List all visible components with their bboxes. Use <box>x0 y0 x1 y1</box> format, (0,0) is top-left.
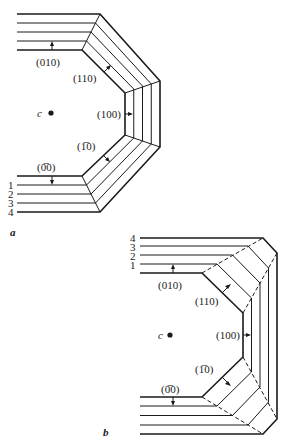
face-label-1m10: (1̅0) <box>77 140 96 153</box>
face-label-110: (110) <box>73 72 97 85</box>
panel-label-a: a <box>10 226 16 238</box>
arrow-110 <box>104 65 111 72</box>
arrow-010 <box>171 264 175 273</box>
center-point <box>167 332 172 337</box>
crystal-growth-diagram: (010) (110) (100) (1̅0) (0̅0) c 1 2 3 4 … <box>0 0 289 445</box>
panel-label-b: b <box>103 426 109 438</box>
face-label-010: (010) <box>158 279 182 292</box>
face-label-1m10: (1̅0) <box>195 363 214 376</box>
face-label-100: (100) <box>216 329 240 342</box>
stage-number-4: 4 <box>8 206 14 218</box>
center-label: c <box>158 329 163 341</box>
arrow-100 <box>125 112 133 116</box>
arrow-0m10 <box>50 176 54 185</box>
panel-a: (010) (110) (100) (1̅0) (0̅0) c 1 2 3 4 … <box>8 14 160 238</box>
panel-b: (010) (110) (100) (1̅0) (0̅0) c 4 3 2 1 … <box>103 232 277 438</box>
center-point <box>48 110 53 115</box>
face-label-010: (010) <box>36 56 60 69</box>
arrow-100 <box>243 333 251 337</box>
stage-number-1: 1 <box>130 259 136 271</box>
center-label: c <box>37 107 42 119</box>
arrow-0m10 <box>171 397 175 406</box>
face-label-0m10: (0̅0) <box>161 383 180 396</box>
arrow-110 <box>222 284 231 293</box>
face-label-110: (110) <box>195 295 219 308</box>
arrow-1m10 <box>103 155 110 162</box>
face-label-100: (100) <box>97 108 121 121</box>
arrow-010 <box>50 41 54 50</box>
face-label-0m10: (0̅0) <box>37 161 56 174</box>
arrow-1m10 <box>222 377 231 386</box>
